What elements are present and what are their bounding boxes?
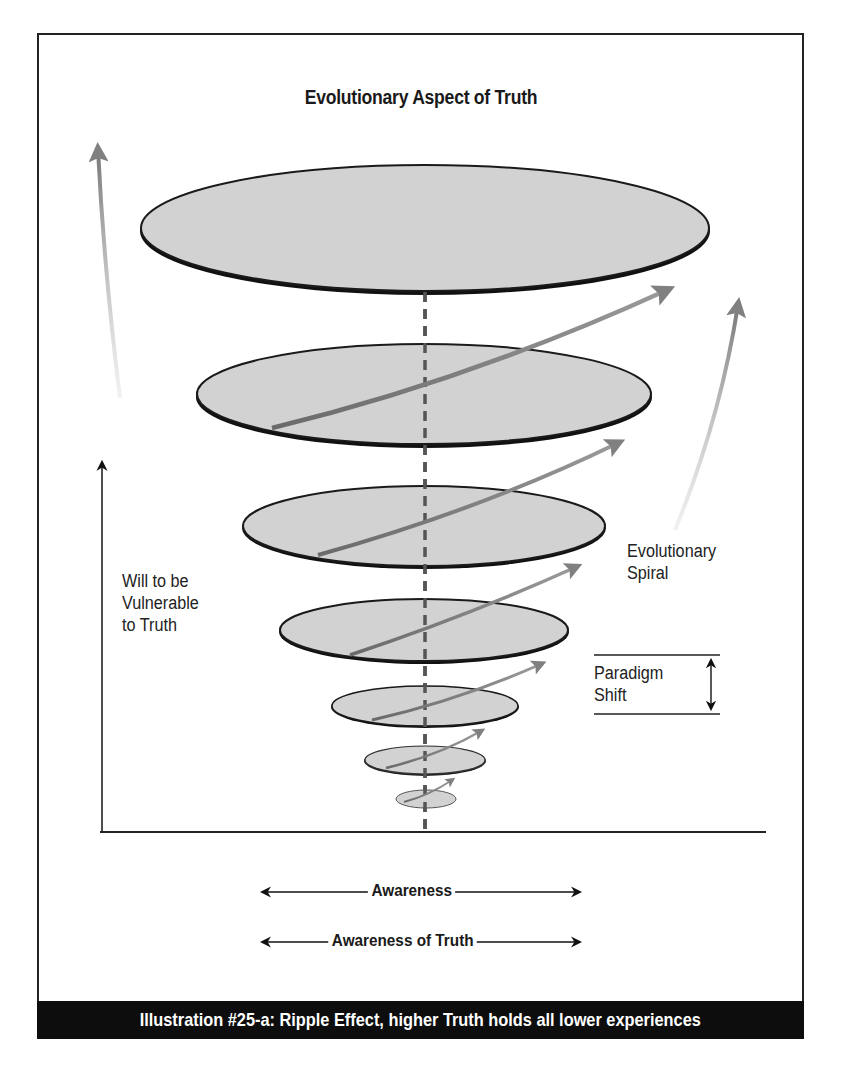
illustration-caption: Illustration #25-a: Ripple Effect, highe…: [37, 1001, 804, 1039]
right-rising-arrow: [675, 305, 738, 530]
paradigm-shift-label: Paradigm Shift: [594, 662, 663, 706]
paradigm-shift-line-2: Shift: [594, 684, 663, 706]
vertical-axis-label-line-3: to Truth: [122, 614, 199, 636]
paradigm-shift-line-1: Paradigm: [594, 662, 663, 684]
caption-text: Illustration #25-a: Ripple Effect, highe…: [140, 1001, 701, 1039]
spiral-label-line-1: Evolutionary: [627, 540, 716, 562]
evolutionary-spiral-label: Evolutionary Spiral: [627, 540, 716, 584]
vertical-axis-label-line-2: Vulnerable: [122, 592, 199, 614]
awareness-label: Awareness: [368, 881, 456, 901]
spiral-label-line-2: Spiral: [627, 562, 716, 584]
left-rising-arrow: [98, 150, 120, 398]
ellipse-level-1: [140, 165, 710, 295]
awareness-of-truth-label: Awareness of Truth: [328, 931, 477, 951]
vertical-axis-label: Will to be Vulnerable to Truth: [122, 570, 199, 636]
vertical-axis-label-line-1: Will to be: [122, 570, 199, 592]
